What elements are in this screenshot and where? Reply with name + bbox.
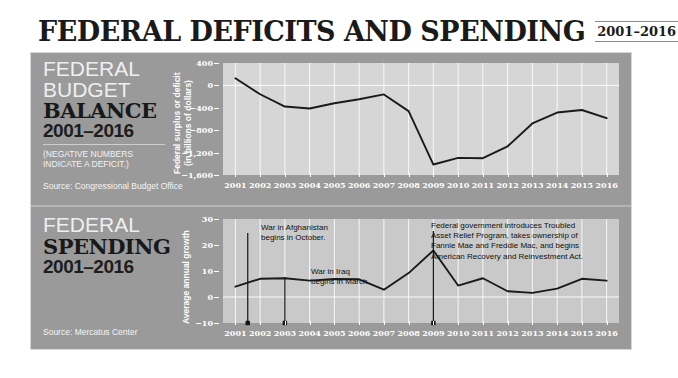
x-tick-mark [384,173,385,177]
y-tick-mark [214,323,219,324]
x-tick-label: 2005 [323,328,345,338]
x-tick-mark [508,321,509,325]
x-tick-mark [260,321,261,325]
x-tick-label: 2016 [595,180,617,190]
y-tick-mark [214,245,219,246]
y-tick-mark [214,219,219,220]
budget-label-years: 2001–2016 [43,121,173,141]
x-tick-label: 2003 [274,180,296,190]
poster-body: FEDERAL BUDGET BALANCE 2001–2016 (NEGATI… [30,52,632,350]
x-tick-mark [557,321,558,325]
x-tick-label: 2015 [571,180,593,190]
x-tick-mark [582,321,583,325]
x-tick-mark [483,173,484,177]
budget-label-rule [43,144,165,145]
budget-label-line3: BALANCE [43,100,173,121]
section-federal-spending: FEDERAL SPENDING 2001–2016 Source: Merca… [31,207,631,351]
x-tick-label: 2009 [422,328,444,338]
title-year-badge: 2001–2016 [595,21,678,42]
x-tick-label: 2012 [496,328,518,338]
budget-label-block: FEDERAL BUDGET BALANCE 2001–2016 (NEGATI… [43,59,173,169]
x-tick-label: 2006 [348,180,370,190]
x-tick-label: 2005 [323,180,345,190]
x-tick-mark [458,321,459,325]
y-tick-mark [214,297,219,298]
x-tick-mark [285,321,286,325]
x-tick-label: 2013 [521,328,543,338]
x-tick-label: 2012 [496,180,518,190]
x-tick-label: 2011 [472,328,494,338]
badge-rule-bottom [595,41,678,42]
spending-label-line2: SPENDING [43,236,173,257]
y-tick-mark [214,130,219,131]
x-tick-label: 2016 [595,328,617,338]
x-tick-mark [409,321,410,325]
x-tick-label: 2007 [373,180,395,190]
spending-label-years: 2001–2016 [43,257,173,277]
x-tick-mark [532,321,533,325]
page-title: FEDERAL DEFICITS AND SPENDING [38,18,585,45]
x-tick-mark [334,173,335,177]
spending-label-line1: FEDERAL [43,215,173,236]
budget-y-tick-group: 4000−400−800−1,200−1,600 [186,53,219,205]
spending-label-block: FEDERAL SPENDING 2001–2016 [43,215,173,277]
x-tick-mark [310,173,311,177]
x-tick-label: 2011 [472,180,494,190]
spending-source: Source: Mercatus Center [43,327,137,337]
y-tick-mark [214,63,219,64]
x-tick-mark [235,173,236,177]
x-tick-label: 2002 [249,328,271,338]
budget-label-line2: BUDGET [43,80,173,101]
x-tick-mark [409,173,410,177]
x-tick-mark [607,321,608,325]
x-tick-mark [359,173,360,177]
x-tick-label: 2001 [224,180,246,190]
x-tick-mark [433,321,434,325]
title-year-range: 2001–2016 [595,22,678,41]
x-tick-label: 2015 [571,328,593,338]
budget-line-chart [223,63,619,175]
poster-header: FEDERAL DEFICITS AND SPENDING 2001–2016 [30,11,632,51]
x-tick-mark [334,321,335,325]
x-tick-label: 2002 [249,180,271,190]
x-tick-label: 2008 [397,328,419,338]
x-tick-label: 2013 [521,180,543,190]
spending-line-chart [223,219,619,323]
x-tick-label: 2001 [224,328,246,338]
y-tick-mark [214,175,219,176]
x-tick-mark [508,173,509,177]
budget-label-line1: FEDERAL [43,59,173,80]
x-tick-label: 2006 [348,328,370,338]
spending-y-tick-group: 3020100−10 [191,207,219,351]
y-tick-mark [214,153,219,154]
budget-source: Source: Congressional Budget Office [43,181,183,191]
x-tick-mark [557,173,558,177]
x-tick-mark [532,173,533,177]
x-tick-label: 2004 [298,180,320,190]
x-tick-label: 2014 [546,328,568,338]
x-tick-label: 2010 [447,328,469,338]
x-tick-mark [483,321,484,325]
y-tick-mark [214,85,219,86]
x-tick-mark [607,173,608,177]
section-federal-budget-balance: FEDERAL BUDGET BALANCE 2001–2016 (NEGATI… [31,53,631,205]
x-tick-mark [285,173,286,177]
x-tick-mark [359,321,360,325]
x-tick-label: 2003 [274,328,296,338]
x-tick-mark [458,173,459,177]
y-tick-mark [214,108,219,109]
x-tick-mark [235,321,236,325]
x-tick-label: 2014 [546,180,568,190]
spending-x-tick-group: 2001200220032004200520062007200820092010… [223,325,619,339]
x-tick-mark [260,173,261,177]
budget-label-note: (NEGATIVE NUMBERS INDICATE A DEFICIT.) [43,149,173,169]
budget-x-tick-group: 2001200220032004200520062007200820092010… [223,177,619,191]
x-tick-label: 2009 [422,180,444,190]
x-tick-label: 2004 [298,328,320,338]
x-tick-mark [310,321,311,325]
budget-plot-area [223,63,619,175]
y-tick-mark [214,271,219,272]
x-tick-label: 2007 [373,328,395,338]
x-tick-mark [433,173,434,177]
